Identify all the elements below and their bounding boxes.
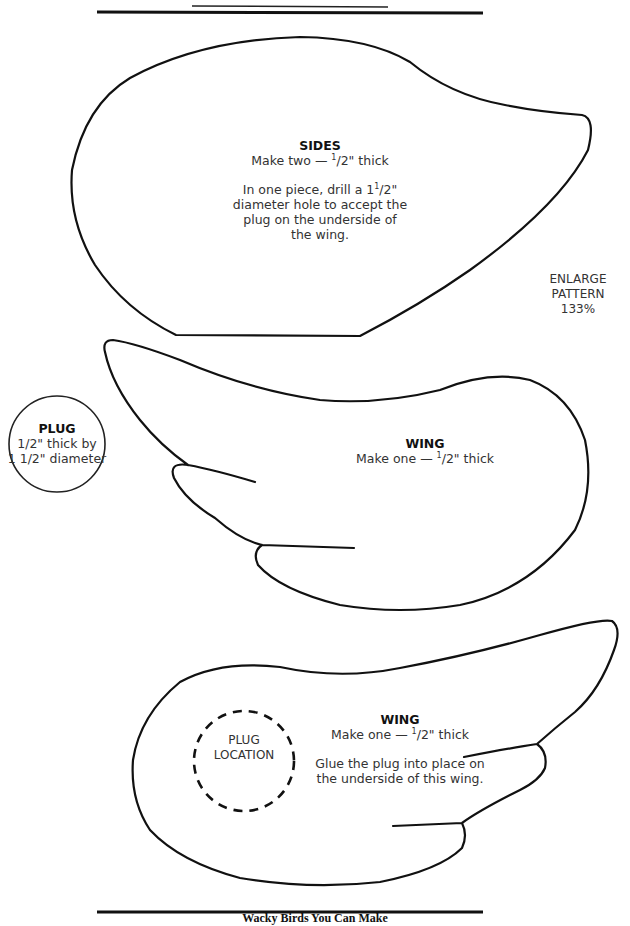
sides-instructions-line4: the wing. [210, 227, 430, 242]
enlarge-note: ENLARGE PATTERN 133% [540, 272, 616, 317]
sides-instr-text: In one piece, drill a 1 [243, 182, 374, 197]
wing-bottom-subtitle-text: Make one — [331, 727, 412, 742]
wing-top-subtitle-rest: /2" thick [442, 451, 494, 466]
wing-top-subtitle-text: Make one — [356, 451, 437, 466]
plug-line1: 1/2" thick by [2, 436, 112, 451]
wing-bottom-subtitle-rest: /2" thick [417, 727, 469, 742]
plug-location-label: PLUG LOCATION [200, 733, 288, 763]
sides-title: SIDES [210, 138, 430, 153]
sides-subtitle-text: Make two — [251, 153, 331, 168]
wing-bottom-subtitle: Make one — 1/2" thick [300, 727, 500, 742]
wing-top-subtitle: Make one — 1/2" thick [350, 451, 500, 466]
plug-location-line1: PLUG [200, 733, 288, 748]
sides-instr-rest: /2" [379, 182, 397, 197]
enlarge-note-line2: PATTERN [540, 287, 616, 302]
sides-instructions-line2: diameter hole to accept the [210, 197, 430, 212]
top-rule-thick [97, 12, 483, 13]
enlarge-note-line3: 133% [540, 302, 616, 317]
plug-title: PLUG [2, 421, 112, 436]
plug-label: PLUG 1/2" thick by 1 1/2" diameter [2, 421, 112, 466]
sides-label: SIDES Make two — 1/2" thick In one piece… [210, 138, 430, 242]
plug-line2: 1 1/2" diameter [2, 451, 112, 466]
sides-instructions-line3: plug on the underside of [210, 212, 430, 227]
wing-bottom-instructions-line2: the underside of this wing. [300, 771, 500, 786]
page-footer: Wacky Birds You Can Make [0, 911, 630, 926]
wing-bottom-instructions-line1: Glue the plug into place on [300, 756, 500, 771]
wing-top-title: WING [350, 436, 500, 451]
sides-instructions-line1: In one piece, drill a 11/2" [210, 182, 430, 197]
wing-top-label: WING Make one — 1/2" thick [350, 436, 500, 466]
plug-location-line2: LOCATION [200, 748, 288, 763]
top-rule-thin [192, 6, 388, 7]
enlarge-note-line1: ENLARGE [540, 272, 616, 287]
sides-subtitle: Make two — 1/2" thick [210, 153, 430, 168]
wing-top-pattern-outline [104, 340, 588, 610]
wing-bottom-label: WING Make one — 1/2" thick Glue the plug… [300, 712, 500, 786]
sides-subtitle-rest: /2" thick [336, 153, 388, 168]
wing-bottom-title: WING [300, 712, 500, 727]
